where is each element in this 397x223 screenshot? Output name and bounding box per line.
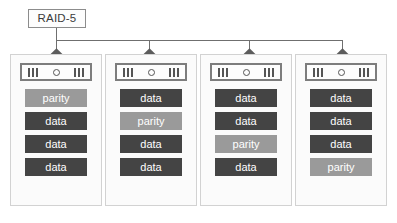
- drive-indicator-dot-icon: [338, 69, 345, 76]
- disk-drive-face-icon-3: [210, 63, 282, 81]
- disk-columns: parity data data data data parity data: [10, 54, 387, 206]
- drive-indicator-dot-icon: [53, 69, 60, 76]
- disk-drive-face-icon-1: [20, 63, 92, 81]
- stripe-list-3: data data parity data: [215, 89, 277, 176]
- disk-column-3: data data parity data: [200, 54, 292, 206]
- stripe-block: data: [120, 158, 182, 176]
- stripe-block: data: [25, 158, 87, 176]
- disk-drive-face-icon-4: [305, 63, 377, 81]
- raid-level-label-box: RAID-5: [28, 9, 86, 28]
- connector-bus: [56, 40, 342, 41]
- stripe-block: data: [310, 89, 372, 107]
- stripe-block: parity: [310, 158, 372, 176]
- stripe-block: parity: [120, 112, 182, 130]
- raid-level-label-text: RAID-5: [38, 13, 77, 25]
- stripe-block: data: [310, 112, 372, 130]
- stripe-list-4: data data data parity: [310, 89, 372, 176]
- stripe-block: parity: [25, 89, 87, 107]
- drive-vents-right-icon: [74, 68, 84, 77]
- disk-drive-face-icon-2: [115, 63, 187, 81]
- disk-column-2: data parity data data: [105, 54, 197, 206]
- drive-vents-right-icon: [169, 68, 179, 77]
- stripe-block: data: [215, 112, 277, 130]
- stripe-list-2: data parity data data: [120, 89, 182, 176]
- drive-vents-left-icon: [313, 68, 323, 77]
- drive-vents-left-icon: [28, 68, 38, 77]
- drive-vents-right-icon: [264, 68, 274, 77]
- stripe-block: data: [215, 158, 277, 176]
- stripe-block: data: [25, 135, 87, 153]
- stripe-block: data: [120, 135, 182, 153]
- drive-indicator-dot-icon: [243, 69, 250, 76]
- stripe-block: data: [310, 135, 372, 153]
- stripe-block: parity: [215, 135, 277, 153]
- disk-column-4: data data data parity: [295, 54, 387, 206]
- drive-vents-left-icon: [218, 68, 228, 77]
- drive-vents-left-icon: [123, 68, 133, 77]
- raid5-diagram: RAID-5 parity data data: [0, 0, 397, 223]
- stripe-list-1: parity data data data: [25, 89, 87, 176]
- drive-vents-right-icon: [359, 68, 369, 77]
- stripe-block: data: [120, 89, 182, 107]
- connector-stem: [56, 28, 57, 40]
- drive-indicator-dot-icon: [148, 69, 155, 76]
- stripe-block: data: [215, 89, 277, 107]
- disk-column-1: parity data data data: [10, 54, 102, 206]
- stripe-block: data: [25, 112, 87, 130]
